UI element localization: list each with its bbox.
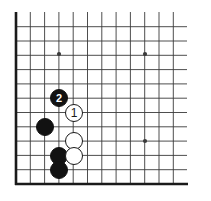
go-board-grid[interactable]: [0, 0, 211, 201]
go-diagram: 21: [0, 0, 211, 201]
grid-lines: [16, 12, 187, 184]
star-point-upper-right: [143, 52, 147, 56]
star-point-lower-right: [143, 139, 147, 143]
star-point-upper-left: [57, 52, 61, 56]
